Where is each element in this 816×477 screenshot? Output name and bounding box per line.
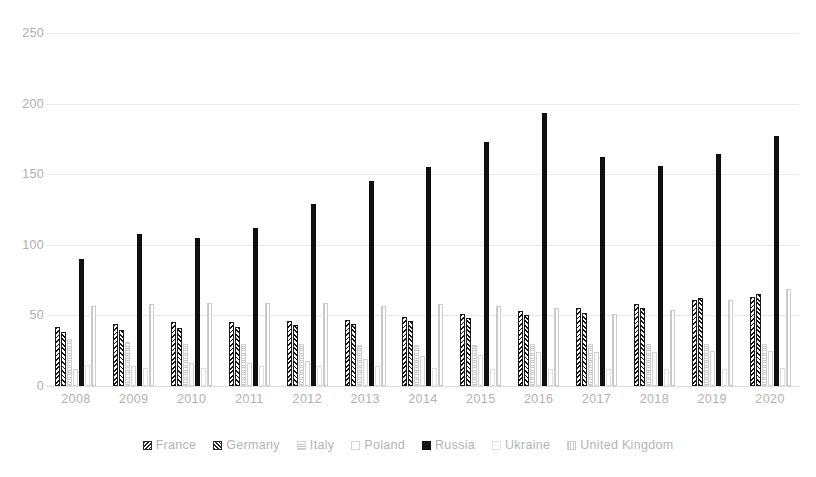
bar-group-2009 — [105, 33, 163, 386]
legend-item-russia[interactable]: Russia — [422, 438, 475, 452]
bar-russia-2019 — [716, 154, 721, 386]
bar-italy-2014 — [414, 345, 419, 386]
x-tick-label-2011: 2011 — [221, 392, 279, 406]
bar-ukraine-2009 — [143, 368, 148, 386]
bar-groups — [47, 33, 799, 386]
bar-germany-2014 — [408, 321, 413, 386]
bar-group-2012 — [278, 33, 336, 386]
bar-poland-2008 — [73, 369, 78, 386]
bar-germany-2012 — [293, 325, 298, 386]
x-tick-label-2018: 2018 — [625, 392, 683, 406]
legend-item-poland[interactable]: Poland — [351, 438, 405, 452]
x-tick-label-2017: 2017 — [568, 392, 626, 406]
bar-ukraine-2014 — [432, 368, 437, 386]
bar-united-kingdom-2012 — [323, 303, 328, 386]
bar-italy-2011 — [241, 344, 246, 386]
bar-united-kingdom-2013 — [381, 306, 386, 386]
bar-italy-2010 — [183, 344, 188, 386]
bar-france-2008 — [55, 327, 60, 386]
bar-group-2015 — [452, 33, 510, 386]
bar-ukraine-2013 — [375, 366, 380, 386]
bar-italy-2015 — [472, 345, 477, 386]
bar-germany-2020 — [756, 294, 761, 386]
bar-russia-2015 — [484, 142, 489, 386]
bar-france-2013 — [345, 320, 350, 386]
bar-group-2016 — [510, 33, 568, 386]
legend-label: United Kingdom — [580, 438, 673, 452]
bar-ukraine-2020 — [780, 368, 785, 386]
bar-russia-2020 — [774, 136, 779, 386]
bar-ukraine-2018 — [664, 369, 669, 386]
x-tick-label-2013: 2013 — [336, 392, 394, 406]
bar-ukraine-2011 — [259, 366, 264, 386]
x-tick-label-2010: 2010 — [163, 392, 221, 406]
bar-france-2019 — [692, 300, 697, 386]
bar-poland-2019 — [710, 351, 715, 386]
bar-russia-2009 — [137, 234, 142, 386]
swatch-outline-icon — [351, 441, 360, 450]
bar-united-kingdom-2020 — [786, 289, 791, 386]
bar-germany-2016 — [524, 315, 529, 386]
bar-france-2012 — [287, 321, 292, 386]
scan-bleed-text — [0, 459, 816, 468]
bar-poland-2009 — [131, 366, 136, 386]
bar-poland-2015 — [478, 355, 483, 386]
bar-united-kingdom-2009 — [149, 304, 154, 386]
bar-ukraine-2016 — [548, 369, 553, 386]
bar-group-2018 — [625, 33, 683, 386]
bar-france-2016 — [518, 311, 523, 386]
bar-united-kingdom-2017 — [612, 314, 617, 386]
bar-russia-2008 — [79, 259, 84, 386]
bar-ukraine-2015 — [490, 369, 495, 386]
bar-russia-2010 — [195, 238, 200, 386]
bar-russia-2017 — [600, 157, 605, 386]
bar-germany-2017 — [582, 313, 587, 386]
bar-group-2019 — [683, 33, 741, 386]
bar-france-2014 — [402, 317, 407, 386]
bar-poland-2012 — [305, 361, 310, 386]
bar-italy-2020 — [762, 344, 767, 386]
chart-legend: FranceGermanyItalyPolandRussiaUkraineUni… — [0, 438, 816, 452]
y-tick-label: 0 — [4, 380, 44, 393]
bar-germany-2019 — [698, 298, 703, 386]
y-tick-label: 250 — [4, 27, 44, 40]
bar-poland-2013 — [363, 359, 368, 386]
legend-item-france[interactable]: France — [143, 438, 197, 452]
swatch-hatch-icon — [213, 441, 222, 450]
legend-label: Poland — [364, 438, 405, 452]
bar-france-2010 — [171, 322, 176, 386]
x-tick-label-2016: 2016 — [510, 392, 568, 406]
legend-item-germany[interactable]: Germany — [213, 438, 280, 452]
bar-ukraine-2017 — [606, 369, 611, 386]
bar-chart: 250 200 150 100 50 0 2008200920102011201… — [0, 0, 816, 477]
axis-baseline — [47, 386, 799, 387]
swatch-hatch-icon — [143, 441, 152, 450]
bar-russia-2014 — [426, 167, 431, 386]
bar-russia-2018 — [658, 166, 663, 386]
bar-germany-2018 — [640, 308, 645, 386]
y-tick-label: 150 — [4, 168, 44, 181]
bar-ukraine-2012 — [317, 366, 322, 386]
bar-united-kingdom-2015 — [496, 306, 501, 386]
bar-united-kingdom-2018 — [670, 310, 675, 386]
bar-poland-2018 — [652, 352, 657, 386]
bar-group-2010 — [163, 33, 221, 386]
legend-item-united-kingdom[interactable]: United Kingdom — [567, 438, 673, 452]
swatch-solid-icon — [422, 441, 431, 450]
bar-russia-2011 — [253, 228, 258, 386]
bar-ukraine-2019 — [722, 369, 727, 386]
bar-group-2011 — [221, 33, 279, 386]
bar-group-2013 — [336, 33, 394, 386]
bar-ukraine-2010 — [201, 368, 206, 386]
bar-group-2020 — [741, 33, 799, 386]
legend-label: Italy — [310, 438, 334, 452]
bar-germany-2009 — [119, 330, 124, 386]
bar-united-kingdom-2010 — [207, 303, 212, 386]
legend-item-ukraine[interactable]: Ukraine — [492, 438, 550, 452]
bar-united-kingdom-2014 — [438, 304, 443, 386]
bar-france-2018 — [634, 304, 639, 386]
bar-united-kingdom-2008 — [91, 306, 96, 386]
legend-item-italy[interactable]: Italy — [297, 438, 334, 452]
bar-ukraine-2008 — [85, 365, 90, 386]
bar-germany-2015 — [466, 318, 471, 386]
